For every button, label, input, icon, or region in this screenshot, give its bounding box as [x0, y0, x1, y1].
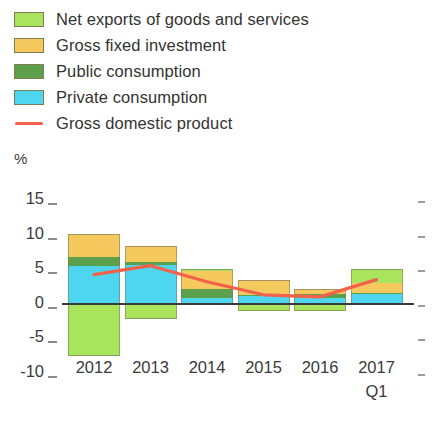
- legend-item-label: Public consumption: [56, 62, 201, 81]
- legend-swatch-icon: [14, 12, 44, 27]
- legend-item[interactable]: Gross domestic product: [14, 112, 232, 134]
- y-axis-tick-mark-right: [418, 201, 425, 203]
- gdp-line-path: [94, 266, 377, 297]
- y-axis-unit-label: %: [14, 150, 27, 167]
- y-axis-tick-label: -10: [2, 362, 44, 381]
- legend-item-label: Gross domestic product: [56, 114, 232, 133]
- y-axis-tick-mark: [48, 376, 57, 378]
- y-axis-tick-label: -5: [2, 327, 44, 346]
- y-axis-tick-mark: [48, 272, 57, 274]
- legend-item[interactable]: Gross fixed investment: [14, 34, 226, 56]
- chart-legend: Net exports of goods and servicesGross f…: [0, 0, 433, 140]
- y-axis-tick-mark-right: [418, 374, 425, 376]
- y-axis-tick-label: 0: [2, 293, 44, 312]
- y-axis-tick-label: 10: [2, 224, 44, 243]
- y-axis-tick-mark: [48, 203, 57, 205]
- y-axis-tick-mark-right: [418, 270, 425, 272]
- legend-item-label: Private consumption: [56, 88, 207, 107]
- legend-swatch-icon: [14, 38, 44, 53]
- plot-area: [62, 140, 414, 434]
- chart-plot: % 151050-5-10 201220132014201520162017Q1: [0, 140, 433, 434]
- y-axis-tick-mark: [48, 341, 57, 343]
- legend-line-icon: [14, 116, 44, 131]
- legend-item-label: Gross fixed investment: [56, 36, 226, 55]
- legend-item[interactable]: Net exports of goods and services: [14, 8, 309, 30]
- gdp-line-series: [62, 140, 414, 434]
- legend-item[interactable]: Private consumption: [14, 86, 207, 108]
- y-axis-tick-label: 5: [2, 258, 44, 277]
- gdp-contributions-chart: Net exports of goods and servicesGross f…: [0, 0, 433, 434]
- y-axis-tick-mark-right: [418, 339, 425, 341]
- legend-swatch-icon: [14, 90, 44, 105]
- y-axis-tick-mark-right: [418, 236, 425, 238]
- legend-item[interactable]: Public consumption: [14, 60, 201, 82]
- y-axis-tick-mark: [48, 238, 57, 240]
- y-axis-tick-mark: [48, 307, 57, 309]
- legend-swatch-icon: [14, 64, 44, 79]
- legend-item-label: Net exports of goods and services: [56, 10, 309, 29]
- y-axis-tick-label: 15: [2, 189, 44, 208]
- y-axis-tick-mark-right: [418, 305, 425, 307]
